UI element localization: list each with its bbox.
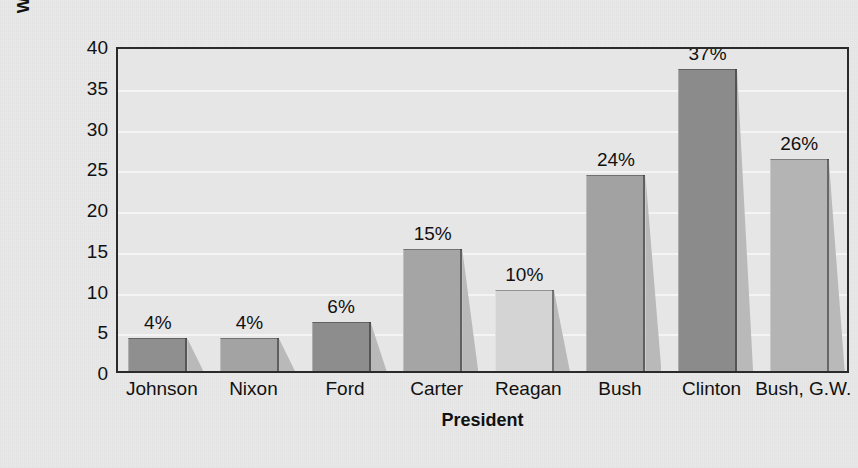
- bar-right-edge: [460, 249, 462, 371]
- y-tick-label: 30: [62, 119, 108, 138]
- y-axis-title-line1: Women Appointees: [14, 0, 34, 13]
- bar-value-label: 10%: [481, 265, 568, 284]
- bar-value-label: 4%: [116, 313, 201, 332]
- x-tick-label: Bush, G.W.: [745, 379, 858, 398]
- bar-right-edge: [369, 322, 371, 371]
- x-axis-title: President: [116, 411, 849, 429]
- bar[interactable]: [770, 159, 829, 371]
- bar-shadow: [829, 159, 845, 371]
- y-axis-title: Women Appointees (percentage): [8, 0, 60, 99]
- y-axis-tick-labels: 0510152025303540: [62, 47, 108, 373]
- bar-shadow: [737, 69, 753, 371]
- bar-body: [495, 290, 554, 372]
- bar-value-label: 24%: [572, 150, 659, 169]
- bar-body: [770, 159, 829, 371]
- bar-right-edge: [735, 69, 737, 371]
- bar-value-label: 37%: [664, 47, 751, 63]
- bar-body: [220, 338, 279, 371]
- y-tick-label: 10: [62, 282, 108, 301]
- y-tick-label: 15: [62, 241, 108, 260]
- bar-shadow: [645, 175, 661, 371]
- bar-right-edge: [827, 159, 829, 371]
- chart-page: Women Appointees (percentage) 0510152025…: [0, 0, 858, 468]
- bars-layer: 4%4%6%15%10%24%37%26%: [118, 49, 847, 371]
- bar[interactable]: [403, 249, 462, 371]
- bar-right-edge: [185, 338, 187, 371]
- bar-shadow: [554, 290, 570, 372]
- y-tick-label: 35: [62, 78, 108, 97]
- bar[interactable]: [495, 290, 554, 372]
- bar-shadow: [462, 249, 478, 371]
- bar-body: [403, 249, 462, 371]
- bar-right-edge: [552, 290, 554, 372]
- bar[interactable]: [220, 338, 279, 371]
- bar-shadow: [187, 338, 203, 371]
- bar-shadow: [371, 322, 387, 371]
- bar-shadow: [279, 338, 295, 371]
- bar-right-edge: [277, 338, 279, 371]
- y-tick-label: 0: [62, 364, 108, 383]
- bar[interactable]: [128, 338, 187, 371]
- plot-area: 4%4%6%15%10%24%37%26%: [116, 47, 849, 373]
- bar-value-label: 26%: [756, 134, 843, 153]
- y-tick-label: 25: [62, 160, 108, 179]
- bar[interactable]: [586, 175, 645, 371]
- bar-value-label: 6%: [298, 297, 385, 316]
- bar-body: [678, 69, 737, 371]
- bar-right-edge: [643, 175, 645, 371]
- y-tick-label: 40: [62, 38, 108, 57]
- bar[interactable]: [678, 69, 737, 371]
- x-axis-tick-labels: JohnsonNixonFordCarterReaganBushClintonB…: [116, 379, 849, 407]
- bar-body: [312, 322, 371, 371]
- bar-body: [128, 338, 187, 371]
- y-tick-label: 5: [62, 323, 108, 342]
- y-tick-label: 20: [62, 201, 108, 220]
- bar-body: [586, 175, 645, 371]
- bar-value-label: 15%: [389, 224, 476, 243]
- bar[interactable]: [312, 322, 371, 371]
- bar-value-label: 4%: [206, 313, 293, 332]
